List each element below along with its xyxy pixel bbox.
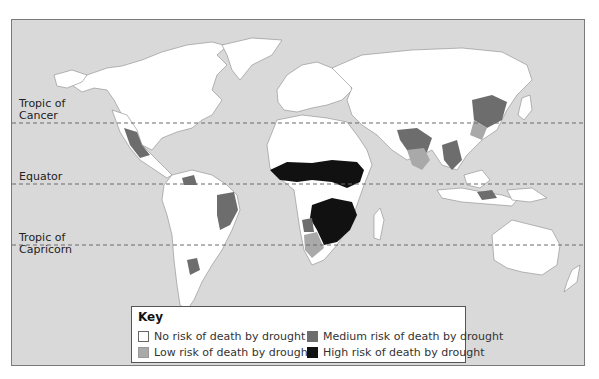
landmass-north-america: [72, 42, 227, 150]
key-item-label: High risk of death by drought: [323, 346, 485, 359]
equator-label-line1: Equator: [19, 171, 62, 183]
no-risk-swatch: [138, 331, 149, 342]
low-risk-swatch: [138, 347, 149, 358]
landmass-south-america: [162, 170, 240, 310]
key-item-high-risk: High risk of death by drought: [307, 346, 485, 359]
tropic-of-capricorn-label: Tropic of Capricorn: [19, 232, 72, 256]
key-item-label: No risk of death by drought: [154, 330, 305, 343]
key-title: Key: [138, 310, 163, 324]
risk-area-medium-africa-west: [302, 218, 314, 232]
tropic-of-cancer-label: Tropic of Cancer: [19, 98, 65, 122]
map-key: Key No risk of death by drought Low risk…: [131, 306, 466, 363]
landmass-borneo: [464, 170, 490, 188]
equator-label: Equator: [19, 171, 62, 183]
high-risk-swatch: [307, 347, 318, 358]
tropic-of-capricorn-label-line2: Capricorn: [19, 244, 72, 256]
landmass-new-zealand: [564, 265, 580, 292]
landmass-greenland: [222, 38, 282, 80]
tropic-of-cancer-label-line2: Cancer: [19, 110, 65, 122]
landmass-australia: [492, 220, 560, 275]
landmass-japan: [518, 95, 532, 120]
key-item-no-risk: No risk of death by drought: [138, 330, 305, 343]
key-item-medium-risk: Medium risk of death by drought: [307, 330, 503, 343]
risk-area-medium-brazil: [217, 192, 238, 230]
medium-risk-swatch: [307, 331, 318, 342]
landmass-indonesia: [437, 188, 517, 206]
landmass-new-guinea: [507, 188, 547, 202]
key-item-low-risk: Low risk of death by drought: [138, 346, 312, 359]
key-item-label: Medium risk of death by drought: [323, 330, 503, 343]
key-item-label: Low risk of death by drought: [154, 346, 312, 359]
landmass-madagascar: [374, 208, 384, 240]
